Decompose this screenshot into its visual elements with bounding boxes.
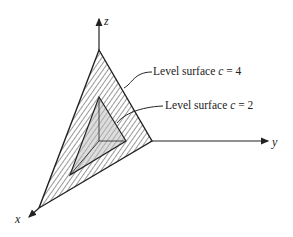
x-axis	[29, 208, 39, 217]
y-axis-label: y	[272, 136, 277, 148]
outer-leader-line	[124, 72, 152, 88]
level-surfaces-diagram	[0, 0, 293, 237]
label-text: Level surface	[165, 99, 230, 111]
label-level-surface-c4: Level surface c = 4	[153, 66, 241, 78]
z-axis-label: z	[104, 15, 109, 27]
label-level-surface-c2: Level surface c = 2	[165, 100, 253, 112]
x-axis-label: x	[15, 213, 20, 225]
label-eq: = 2	[235, 99, 253, 111]
label-text: Level surface	[153, 65, 218, 77]
label-eq: = 4	[223, 65, 241, 77]
